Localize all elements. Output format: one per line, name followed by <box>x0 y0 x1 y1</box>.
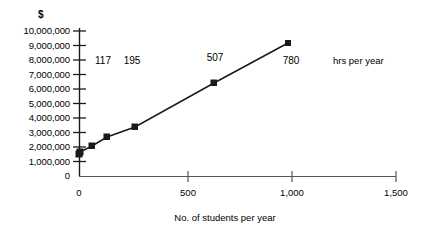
data-point <box>89 143 96 150</box>
x-tick-label-1000: 1,000 <box>272 188 312 198</box>
data-point <box>285 40 291 46</box>
annotation-507: 507 <box>200 53 230 63</box>
annotation-195: 195 <box>117 56 147 66</box>
x-tick-label-500: 500 <box>168 188 208 198</box>
hours-per-year-note: hrs per year <box>333 56 384 66</box>
x-tick-label-1500: 1,500 <box>376 188 416 198</box>
y-tick-label-5000000: 5,000,000 <box>0 99 70 109</box>
y-tick-label-3000000: 3,000,000 <box>0 128 70 138</box>
data-point <box>132 124 139 131</box>
line-chart: $ 10,000,000 9,000,000 8,000,000 7,000,0… <box>0 0 424 243</box>
annotation-780: 780 <box>276 56 306 66</box>
y-tick-label-0: 0 <box>0 171 70 181</box>
annotation-117: 117 <box>88 56 118 66</box>
x-tick-label-0: 0 <box>59 188 99 198</box>
y-tick-label-8000000: 8,000,000 <box>0 55 70 65</box>
y-axis-unit-label: $ <box>38 10 44 20</box>
y-tick-label-9000000: 9,000,000 <box>0 41 70 51</box>
y-tick-label-1000000: 1,000,000 <box>0 157 70 167</box>
y-tick-label-2000000: 2,000,000 <box>0 142 70 152</box>
x-axis-title: No. of students per year <box>145 213 305 223</box>
y-tick-label-7000000: 7,000,000 <box>0 70 70 80</box>
y-tick-label-4000000: 4,000,000 <box>0 113 70 123</box>
data-point <box>77 149 84 156</box>
data-point <box>104 134 111 141</box>
y-tick-label-10000000: 10,000,000 <box>0 26 70 36</box>
data-point <box>211 80 218 87</box>
y-tick-label-6000000: 6,000,000 <box>0 84 70 94</box>
